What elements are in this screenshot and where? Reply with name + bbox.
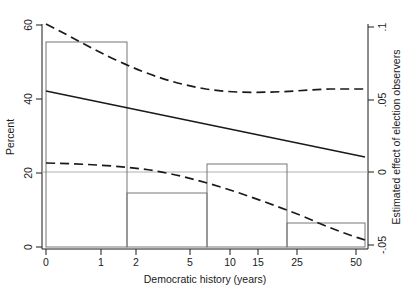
chart-svg: 60 40 20 0 .1 .05 0 -.05: [0, 0, 412, 298]
histogram-bars: [46, 42, 365, 247]
y-axis-title: Percent: [4, 119, 16, 155]
x-tick-label-0: 0: [43, 256, 49, 268]
table-row: [46, 42, 127, 247]
upper-confidence-bound-curve: [46, 24, 365, 92]
left-axis-ticks: 60 40 20 0: [22, 19, 42, 250]
right-axis-ticks: .1 .05 0 -.05: [368, 22, 388, 254]
right-tick-label-p05: .05: [376, 93, 388, 108]
x-tick-label-10: 10: [224, 256, 236, 268]
x-tick-label-50: 50: [350, 256, 362, 268]
x-axis-ticks: 0 1 2 5 10 15 25 50: [43, 249, 362, 268]
y2-axis-title: Estimated effect of election observers: [390, 50, 402, 225]
point-estimate-line: [46, 91, 365, 157]
lower-confidence-bound-curve: [46, 163, 365, 240]
x-tick-label-25: 25: [291, 256, 303, 268]
plot-frame: [42, 24, 368, 249]
table-row: [127, 193, 207, 247]
x-tick-label-15: 15: [252, 256, 264, 268]
right-tick-label-0: 0: [376, 169, 388, 175]
table-row: [207, 164, 287, 247]
right-tick-label-m05: -.05: [376, 236, 388, 254]
x-tick-label-5: 5: [187, 256, 193, 268]
x-axis-title: Democratic history (years): [144, 273, 267, 285]
left-tick-label-0: 0: [22, 244, 34, 250]
table-row: [287, 223, 365, 247]
x-tick-label-1: 1: [98, 256, 104, 268]
left-tick-label-60: 60: [22, 19, 34, 31]
left-tick-label-40: 40: [22, 93, 34, 105]
chart-figure: 60 40 20 0 .1 .05 0 -.05: [0, 0, 412, 298]
left-tick-label-20: 20: [22, 167, 34, 179]
right-tick-label-p1: .1: [376, 22, 388, 31]
regression-curves: [46, 24, 365, 240]
x-tick-label-2: 2: [133, 256, 139, 268]
